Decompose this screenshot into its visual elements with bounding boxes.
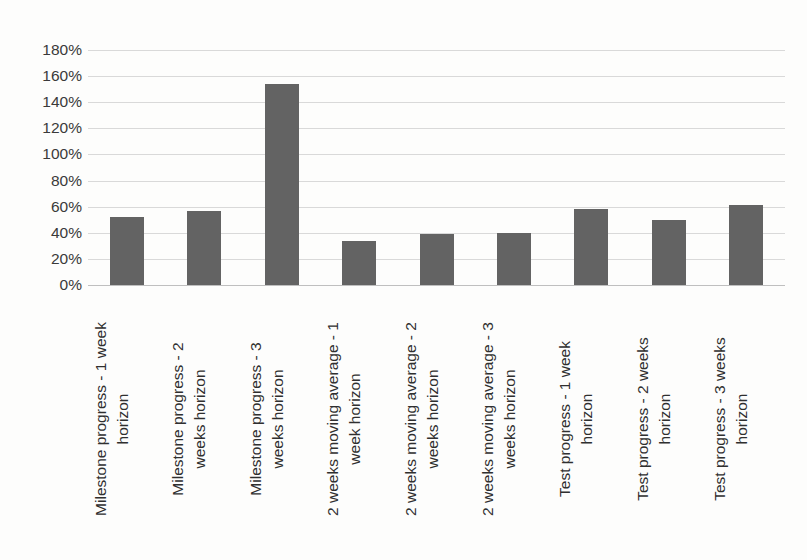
- category-label-line: weeks horizon: [422, 289, 444, 549]
- y-axis-tick-label: 160%: [8, 68, 82, 84]
- category-label-line: horizon: [576, 289, 598, 549]
- bar: [729, 205, 763, 285]
- y-axis-tick-label: 180%: [8, 42, 82, 58]
- x-axis-category-label: Test progress - 3 weekshorizon: [709, 289, 783, 549]
- category-label-line: weeks horizon: [499, 289, 521, 549]
- bar: [574, 209, 608, 285]
- x-axis-category-label: Test progress - 1 weekhorizon: [554, 289, 628, 549]
- bars-layer: [88, 50, 785, 285]
- x-axis-category-label: 2 weeks moving average - 1week horizon: [322, 289, 396, 549]
- x-axis-category-label: 2 weeks moving average - 2weeks horizon: [400, 289, 474, 549]
- category-label-line: week horizon: [344, 289, 366, 549]
- bar: [110, 217, 144, 285]
- category-label-line: 2 weeks moving average - 3: [477, 289, 499, 549]
- y-axis-tick-label: 120%: [8, 120, 82, 136]
- bar: [187, 211, 221, 285]
- y-axis-tick-labels: 180%160%140%120%100%80%60%40%20%0%: [0, 50, 82, 285]
- axis-baseline: [88, 285, 785, 286]
- y-axis-tick-label: 140%: [8, 94, 82, 110]
- y-axis-tick-label: 20%: [8, 251, 82, 267]
- y-axis-tick-label: 80%: [8, 173, 82, 189]
- y-axis-tick-label: 60%: [8, 199, 82, 215]
- category-label-line: 2 weeks moving average - 2: [400, 289, 422, 549]
- category-label-line: weeks horizon: [267, 289, 289, 549]
- bar: [652, 220, 686, 285]
- x-axis-category-label: Milestone progress - 3weeks horizon: [245, 289, 319, 549]
- category-label-line: Test progress - 3 weeks: [709, 289, 731, 549]
- x-axis-category-label: 2 weeks moving average - 3weeks horizon: [477, 289, 551, 549]
- bar-chart: 180%160%140%120%100%80%60%40%20%0% Miles…: [0, 0, 807, 560]
- category-label-line: 2 weeks moving average - 1: [322, 289, 344, 549]
- bar: [342, 241, 376, 285]
- bar: [265, 84, 299, 285]
- bar: [497, 233, 531, 285]
- category-label-line: horizon: [654, 289, 676, 549]
- y-axis-tick-label: 100%: [8, 146, 82, 162]
- category-label-line: horizon: [112, 289, 134, 549]
- x-axis-category-label: Milestone progress - 2weeks horizon: [167, 289, 241, 549]
- x-axis-category-label: Test progress - 2 weekshorizon: [632, 289, 706, 549]
- y-axis-tick-label: 40%: [8, 225, 82, 241]
- y-axis-tick-label: 0%: [8, 277, 82, 293]
- bar: [420, 234, 454, 285]
- x-axis-category-label: Milestone progress - 1 weekhorizon: [90, 289, 164, 549]
- x-axis-category-labels: Milestone progress - 1 weekhorizonMilest…: [88, 289, 785, 555]
- category-label-line: Milestone progress - 1 week: [90, 289, 112, 549]
- category-label-line: Milestone progress - 3: [245, 289, 267, 549]
- category-label-line: weeks horizon: [189, 289, 211, 549]
- category-label-line: Test progress - 2 weeks: [632, 289, 654, 549]
- category-label-line: horizon: [731, 289, 753, 549]
- category-label-line: Milestone progress - 2: [167, 289, 189, 549]
- category-label-line: Test progress - 1 week: [554, 289, 576, 549]
